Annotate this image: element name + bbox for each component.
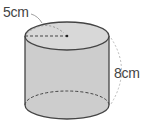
radius-leader-line [31, 14, 42, 23]
height-label: 8cm [114, 66, 140, 80]
radius-label: 5cm [3, 5, 29, 19]
center-point [66, 35, 69, 38]
cylinder-diagram: 5cm 8cm [0, 0, 146, 129]
